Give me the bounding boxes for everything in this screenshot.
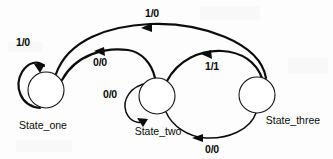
edge-label-three-to-one: 1/0 bbox=[145, 7, 159, 19]
state-machine-diagram: 1/0 0/0 0/0 1/1 0/0 1/0 State_one State_… bbox=[0, 0, 333, 159]
edge-label-one-self-loop: 1/0 bbox=[16, 36, 30, 48]
state-label-state-one: State_one bbox=[19, 119, 67, 131]
state-node-state-one[interactable] bbox=[28, 72, 64, 108]
state-node-state-three[interactable] bbox=[239, 77, 275, 113]
edge-label-two-self-loop: 0/0 bbox=[103, 88, 117, 100]
edge-label-one-to-two: 0/0 bbox=[93, 56, 107, 68]
transition-one-to-two-arrowhead bbox=[94, 47, 105, 56]
transition-three-to-one-path bbox=[56, 24, 266, 78]
diagram-canvas: 1/0 0/0 0/0 1/1 0/0 1/0 State_one State_… bbox=[0, 0, 333, 159]
edge-label-two-to-three: 1/1 bbox=[205, 60, 219, 72]
state-node-state-two[interactable] bbox=[139, 78, 175, 114]
state-label-state-three: State_three bbox=[266, 114, 320, 126]
edge-label-three-to-two: 0/0 bbox=[205, 143, 219, 155]
state-label-state-two: State_two bbox=[135, 125, 182, 137]
transition-one-to-two-path bbox=[62, 49, 155, 80]
